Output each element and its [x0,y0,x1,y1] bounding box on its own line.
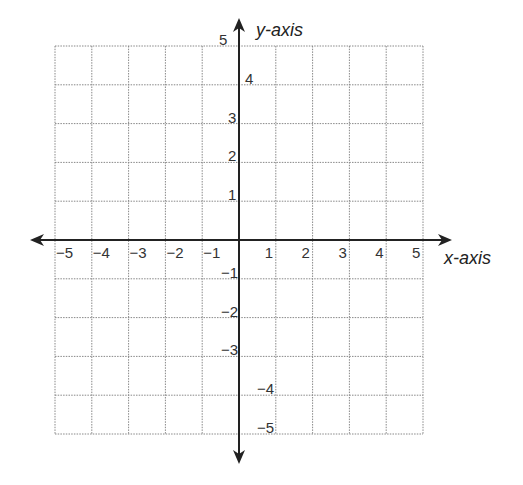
y-tick-label: 3 [228,110,236,125]
x-tick-label: −1 [203,245,220,260]
y-tick-label: −3 [221,342,238,357]
y-tick-label: −2 [221,304,238,319]
x-tick-label: 4 [375,245,383,260]
y-axis-title: y-axis [256,21,303,39]
y-tick-label: 5 [219,32,227,47]
x-tick-label: 2 [302,245,310,260]
x-axis-title: x-axis [444,249,491,267]
x-tick-label: 5 [412,245,420,260]
x-tick-label: −3 [130,245,147,260]
y-tick-label: −4 [257,381,274,396]
x-tick-label: −4 [93,245,110,260]
x-tick-label: 1 [265,245,273,260]
y-tick-label: 2 [228,148,236,163]
y-tick-label: 4 [245,71,253,86]
y-tick-label: −5 [257,420,274,435]
y-tick-label: 1 [228,187,236,202]
coordinate-plane [0,0,523,485]
x-tick-label: −5 [56,245,73,260]
x-tick-label: 3 [338,245,346,260]
x-tick-label: −2 [166,245,183,260]
y-tick-label: −1 [221,265,238,280]
